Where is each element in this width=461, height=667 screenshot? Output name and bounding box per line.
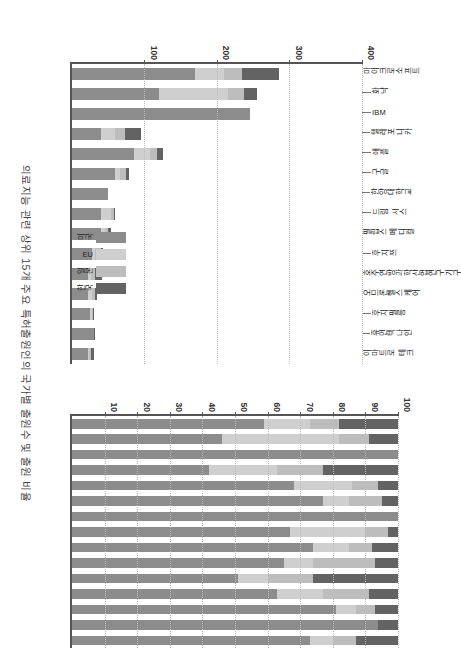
bar-segment [323,496,349,506]
y-axis-tick-mark [268,412,269,416]
y-axis-tick-mark [170,412,171,416]
bar-segment [72,108,250,120]
y-axis-tick-mark [398,412,399,416]
y-axis-tick-mark [300,412,301,416]
bar-segment [313,543,349,553]
bar-segment [91,348,94,360]
category-label: 화낙 [372,88,388,96]
stacked-bar[interactable] [72,88,257,100]
category-label-slot: 한양대학교 [362,183,412,203]
stacked-bar[interactable] [72,148,163,160]
y-axis-tick-mark [235,412,236,416]
bar-segment [72,128,101,140]
bar-segment [72,543,313,553]
category-label: 오므론헬스케어 [363,290,420,298]
category-label: 구글 [372,169,388,177]
stacked-bar[interactable] [72,108,250,120]
bar-segment [242,68,278,80]
y-axis-tick-mark [362,60,363,64]
bar-segment [72,465,209,475]
gridline [202,416,203,648]
category-label: 이마트로 테크 [363,350,414,358]
category-tick-mark [362,253,371,254]
gridline [333,416,334,648]
stacked-bar[interactable] [72,168,129,180]
category-label-slot: 구글 [362,163,412,183]
y-axis-tick-label: 200 [222,46,232,60]
legend-swatch-1 [96,249,126,260]
bar-segment [90,308,91,320]
category-label-slot: 드림 시스 [362,203,412,223]
y-axis-tick-mark [105,412,106,416]
bar-segment [339,434,368,444]
gridline [365,416,366,648]
category-label-strip-a: 마이크로소프트화낙IBM텔레포니카애플구글한양대학교드림 시스필립스 메디컬후지… [362,62,412,364]
bar-segment [310,419,339,429]
gridline [290,64,291,364]
category-label-slot: 이마트로 테크 [362,344,412,364]
stacked-bar[interactable] [72,68,279,80]
bar-segment [310,636,333,646]
legend-label-0: 미국 [77,232,93,243]
y-axis-tick-label: 100 [403,398,413,412]
bar-segment [339,419,398,429]
bar-segment [224,68,242,80]
bar-segment [125,128,141,140]
category-label: 마이크로소프트 [363,68,420,76]
bar-segment [126,168,129,180]
bar-segment [72,605,336,615]
bar-segment [101,128,116,140]
bar-segment [72,308,90,320]
category-label-slot: 후지쯔 [362,243,412,263]
category-label: 휴먼텍나인 [371,330,412,338]
bar-segment [372,543,398,553]
category-label-slot: 호주연방과학산업연구기구 [362,263,412,283]
bar-segment [228,88,244,100]
stacked-bar[interactable] [72,328,95,340]
legend: 미국 EU 일본 한국 [77,232,126,294]
category-label-slot: 애플 [362,143,412,163]
bar-segment [72,88,159,100]
category-tick-mark [362,172,371,173]
bar-segment [92,308,93,320]
bar-segment [323,465,398,475]
category-label: 한양대학교 [371,189,412,197]
bar-segment [72,636,310,646]
gridline [300,416,301,648]
bar-segment [72,574,238,584]
bar-segment [356,636,398,646]
bar-segment [365,527,388,537]
gridline [268,416,269,648]
legend-swatch-3 [96,283,126,294]
category-tick-mark [362,152,371,153]
category-tick-mark [362,192,370,193]
stacked-bar[interactable] [72,208,116,220]
bar-segment [72,68,195,80]
bar-segment [264,419,310,429]
bar-segment [94,328,95,340]
y-axis-tick-label: 80 [337,403,347,412]
bar-segment [290,527,365,537]
stacked-bar[interactable] [72,128,141,140]
bar-segment [72,496,323,506]
bar-segment [115,168,119,180]
y-axis-tick-mark [137,412,138,416]
y-axis-tick-mark [217,60,218,64]
gridline [137,416,138,648]
bar-segment [93,308,94,320]
y-axis-tick-label: 20 [142,403,152,412]
stacked-bar[interactable] [72,188,108,200]
stacked-bar[interactable] [72,348,94,360]
category-label: 필립스 메디컬 [363,229,414,237]
bar-segment [72,188,108,200]
stacked-bar[interactable] [72,308,94,320]
category-label-slot: 화낙 [362,82,412,102]
bar-segment [116,128,125,140]
bar-segment [336,605,356,615]
category-tick-mark [362,333,370,334]
gridline [170,416,171,648]
y-axis-tick-mark [333,412,334,416]
bar-segment [375,605,398,615]
category-label-slot: 오므론헬스케어 [362,283,412,303]
